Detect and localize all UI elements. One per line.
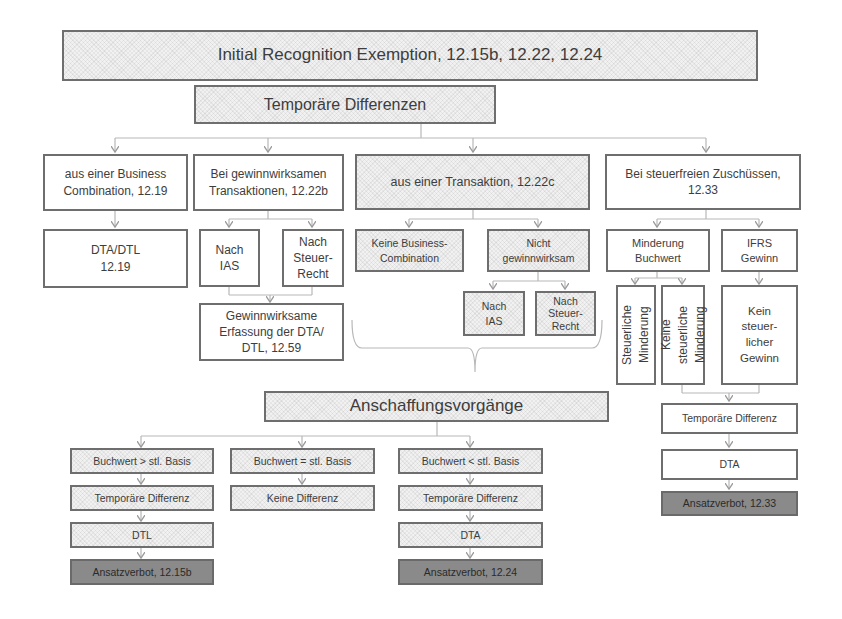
col1-type-box: DTL: [70, 522, 214, 548]
kein-steuerlicher-gewinn-label: Kein steuer- licher Gewinn: [740, 304, 779, 366]
gw-nach-ias-box: Nach IAS: [199, 229, 260, 287]
gw-nach-ias-label: Nach IAS: [215, 242, 243, 274]
col3-verbot: Ansatzverbot, 12.24: [424, 565, 517, 579]
minderung-buchwert-box: Minderung Buchwert: [606, 229, 710, 272]
tr-nach-ias-label: Nach IAS: [482, 299, 507, 327]
gewinnwirksam-label: Bei gewinnwirksamen Transaktionen, 12.22…: [209, 166, 328, 198]
steuerliche-minderung-box: Steuerliche Minderung: [616, 285, 656, 385]
col1-type: DTL: [132, 528, 152, 542]
zu-temp-diff-label: Temporäre Differenz: [682, 411, 777, 425]
dta-dtl-label: DTA/DTL 12.19: [91, 242, 140, 274]
transaktion-label: aus einer Transaktion, 12.22c: [391, 174, 555, 191]
col1-verbot: Ansatzverbot, 12.15b: [92, 565, 191, 579]
title-text: Initial Recognition Exemption, 12.15b, 1…: [218, 44, 603, 67]
subtitle-text: Temporäre Differenzen: [264, 94, 426, 116]
minderung-buchwert-label: Minderung Buchwert: [632, 236, 684, 266]
col2-condition: Buchwert = stl. Basis: [254, 454, 352, 468]
col3-type-box: DTA: [398, 522, 543, 548]
col3-condition: Buchwert < stl. Basis: [422, 454, 520, 468]
zuschuesse-label: Bei steuerfreien Zuschüssen, 12.33: [625, 166, 780, 198]
gw-nach-steuerrecht-label: Nach Steuer- Recht: [293, 234, 332, 283]
col3-diff: Temporäre Differenz: [423, 491, 518, 505]
business-combination-label: aus einer Business Combination, 12.19: [63, 166, 167, 198]
ifrs-gewinn-label: IFRS Gewinn: [741, 236, 778, 266]
col2-condition-box: Buchwert = stl. Basis: [230, 448, 375, 474]
col1-verbot-box: Ansatzverbot, 12.15b: [70, 559, 214, 585]
col2-diff-box: Keine Differenz: [230, 485, 375, 511]
zu-verbot-label: Ansatzverbot, 12.33: [683, 496, 776, 510]
col1-diff-box: Temporäre Differenz: [70, 485, 214, 511]
keine-steuerliche-minderung-box: Keine steuerliche Minderung: [661, 285, 705, 385]
subtitle-box: Temporäre Differenzen: [194, 85, 496, 124]
col3-condition-box: Buchwert < stl. Basis: [398, 448, 543, 474]
zu-verbot-box: Ansatzverbot, 12.33: [661, 491, 798, 516]
tr-nach-steuerrecht-label: Nach Steuer- Recht: [548, 295, 582, 333]
tr-nach-ias-box: Nach IAS: [463, 291, 525, 336]
col1-condition-box: Buchwert > stl. Basis: [70, 448, 214, 474]
zuschuesse-box: Bei steuerfreien Zuschüssen, 12.33: [605, 154, 801, 210]
col3-type: DTA: [460, 528, 480, 542]
steuerliche-minderung-label: Steuerliche Minderung: [619, 305, 653, 365]
col3-verbot-box: Ansatzverbot, 12.24: [398, 559, 543, 585]
keine-business-box: Keine Business- Combination: [355, 229, 464, 272]
zu-dta-label: DTA: [719, 457, 739, 471]
anschaffung-title-box: Anschaffungsvorgänge: [264, 391, 609, 422]
anschaffung-title: Anschaffungsvorgänge: [350, 395, 524, 418]
nicht-gewinnwirksam-box: Nicht gewinnwirksam: [487, 229, 590, 272]
gw-nach-steuerrecht-box: Nach Steuer- Recht: [282, 229, 344, 287]
keine-steuerliche-minderung-label: Keine steuerliche Minderung: [658, 306, 708, 364]
title-box: Initial Recognition Exemption, 12.15b, 1…: [62, 30, 758, 81]
gewinnwirksam-box: Bei gewinnwirksamen Transaktionen, 12.22…: [193, 154, 344, 211]
col2-diff: Keine Differenz: [267, 491, 339, 505]
col1-condition: Buchwert > stl. Basis: [93, 454, 191, 468]
zu-dta-box: DTA: [661, 449, 798, 480]
zu-temp-diff-box: Temporäre Differenz: [661, 403, 798, 434]
business-combination-box: aus einer Business Combination, 12.19: [43, 154, 188, 211]
gw-result-label: Gewinnwirksame Erfassung der DTA/ DTL, 1…: [219, 308, 323, 357]
transaktion-box: aus einer Transaktion, 12.22c: [355, 154, 590, 210]
ifrs-gewinn-box: IFRS Gewinn: [721, 229, 798, 272]
col3-diff-box: Temporäre Differenz: [398, 485, 543, 511]
keine-business-label: Keine Business- Combination: [372, 236, 448, 264]
dta-dtl-box: DTA/DTL 12.19: [43, 229, 188, 288]
kein-steuerlicher-gewinn-box: Kein steuer- licher Gewinn: [721, 285, 798, 385]
col1-diff: Temporäre Differenz: [95, 491, 190, 505]
gw-result-box: Gewinnwirksame Erfassung der DTA/ DTL, 1…: [199, 303, 344, 361]
tr-nach-steuerrecht-box: Nach Steuer- Recht: [535, 291, 596, 336]
nicht-gewinnwirksam-label: Nicht gewinnwirksam: [503, 236, 575, 264]
